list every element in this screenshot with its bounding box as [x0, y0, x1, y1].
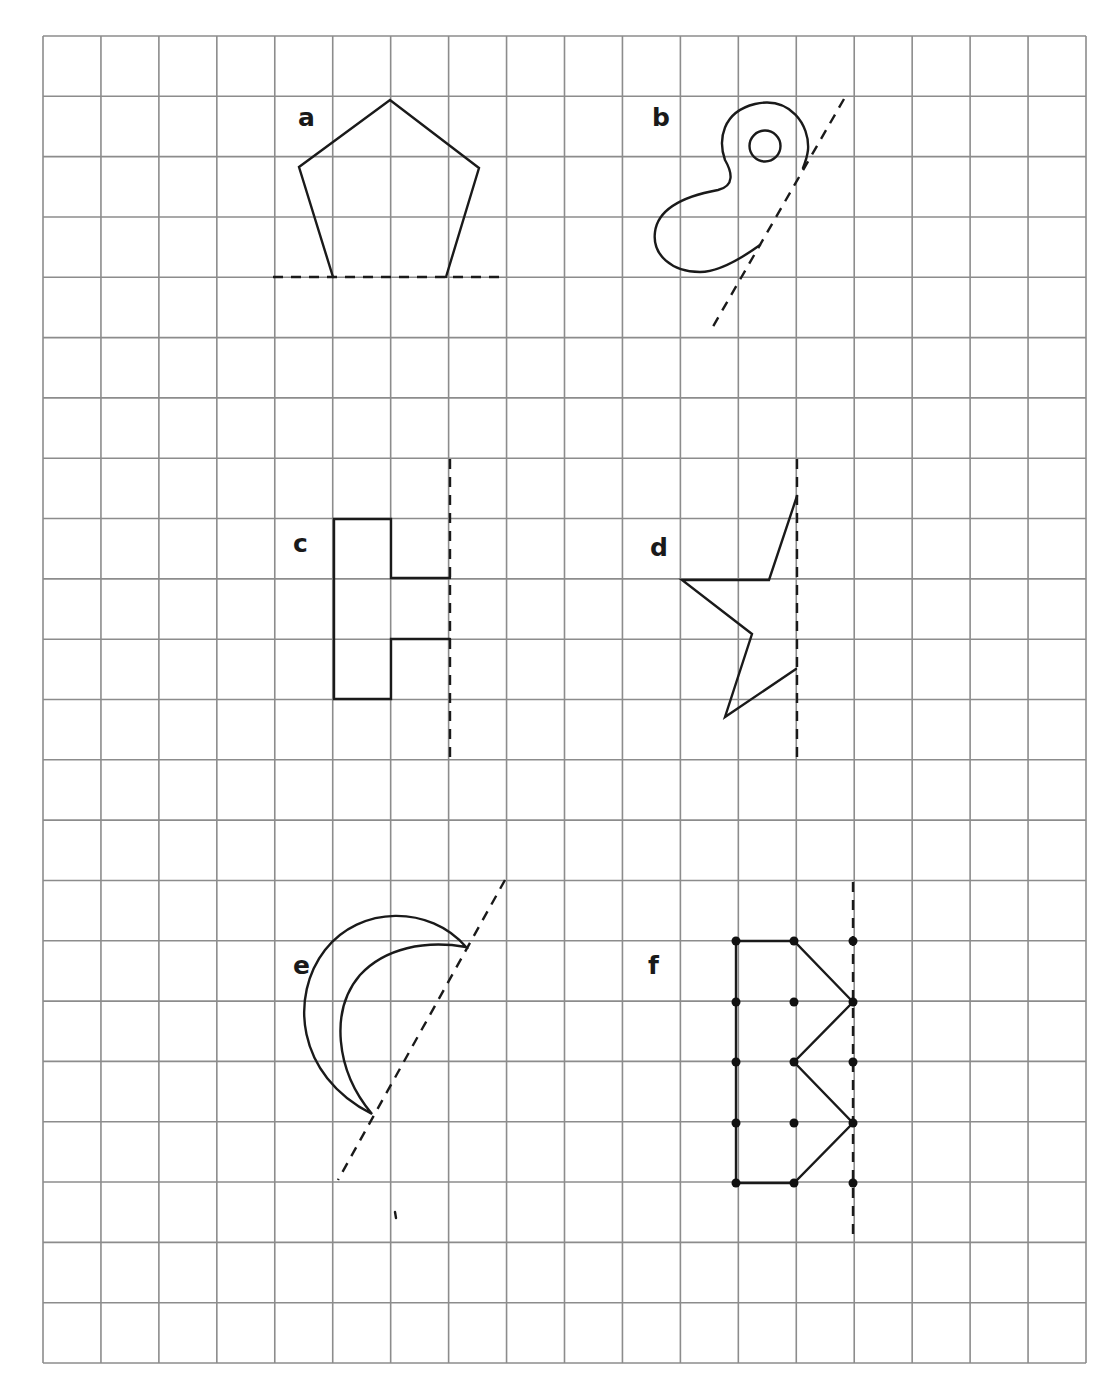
problem-label-b: b: [652, 103, 670, 132]
lattice-dot: [849, 1179, 858, 1188]
mirror-line-e: [338, 880, 505, 1180]
grid: [43, 36, 1086, 1363]
lattice-dot: [732, 937, 741, 946]
half-star-shape: [682, 496, 797, 717]
lattice-dot: [849, 998, 858, 1007]
lattice-dot: [732, 1179, 741, 1188]
problem-label-c: c: [293, 529, 308, 558]
problem-label-f: f: [648, 951, 660, 980]
problem-e: e: [293, 880, 505, 1218]
lattice-dot: [849, 1058, 858, 1067]
problem-c: c: [293, 459, 450, 760]
blob-shape: [655, 103, 808, 272]
problem-label-e: e: [293, 951, 310, 980]
mirror-line-b: [711, 99, 844, 330]
lattice-dot: [849, 937, 858, 946]
crescent-shape: [304, 916, 466, 1114]
lattice-dot: [790, 998, 799, 1007]
lattice-dot: [790, 937, 799, 946]
pentagon-shape: [299, 100, 479, 277]
problem-d: d: [650, 459, 797, 760]
problem-a: a: [273, 100, 506, 277]
lattice-dot: [732, 998, 741, 1007]
lattice-dot: [790, 1119, 799, 1128]
lattice-dot: [790, 1058, 799, 1067]
lattice-dot: [790, 1179, 799, 1188]
e-like-shape: [334, 519, 450, 699]
lattice-dot: [732, 1119, 741, 1128]
lattice-dot: [849, 1119, 858, 1128]
problem-label-a: a: [298, 103, 315, 132]
problem-label-d: d: [650, 533, 668, 562]
stray-mark: [395, 1212, 396, 1218]
worksheet-canvas: a b c d e f: [0, 0, 1115, 1383]
lattice-dot: [732, 1058, 741, 1067]
